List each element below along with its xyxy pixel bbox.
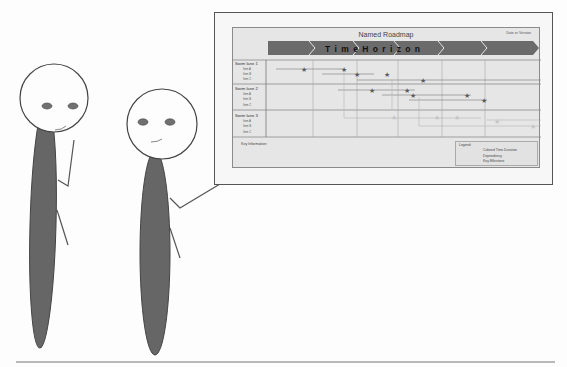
lane-item-label: Item A	[243, 67, 251, 71]
left-person-arm-raised	[58, 140, 74, 186]
key-information-label: Key Information:	[241, 142, 267, 146]
star-icon: ★	[494, 118, 500, 125]
left-person-head	[20, 64, 88, 132]
star-icon: ★	[464, 92, 470, 99]
star-icon: ★	[420, 77, 426, 84]
right-person-head	[127, 89, 197, 159]
duration-lines	[276, 69, 541, 100]
swim-lane-1-label: Swim lane 1	[235, 61, 258, 66]
lane-item-label: Item A	[243, 92, 251, 96]
lane-item-label: Item A	[243, 119, 251, 123]
right-person-arm	[170, 228, 180, 258]
lane-item-label: Item C	[243, 103, 251, 107]
time-gridlines	[313, 60, 485, 137]
right-person-body	[140, 151, 170, 355]
roadmap-panel: Named Roadmap Date or Version T i m e H …	[232, 27, 540, 168]
left-person-eye	[42, 103, 52, 109]
faded-milestones: ★ ★ ★ ★ ★	[391, 114, 536, 130]
star-icon: ★	[454, 114, 460, 121]
legend-item-milestone: Key Milestone	[483, 159, 504, 163]
star-icon: ★	[530, 123, 536, 130]
dependency-lines	[344, 69, 541, 126]
time-horizon-label: T i m e H o r i z o n	[325, 44, 421, 54]
left-person-body	[27, 102, 59, 349]
star-icon: ★	[391, 114, 397, 121]
star-icon: ★	[410, 92, 416, 99]
swim-lane-2-label: Swim lane 2	[235, 86, 258, 91]
legend-item-duration: Colored Time Duration	[483, 148, 517, 152]
star-icon: ★	[384, 71, 390, 78]
legend-item-dependency: Dependency	[483, 154, 502, 158]
legend-box: Legend: Colored Time Duration Dependency…	[455, 141, 538, 166]
star-icon: ★	[341, 66, 347, 73]
right-person-eye	[138, 119, 148, 125]
star-icon: ★	[434, 114, 440, 121]
star-icon: ★	[354, 71, 360, 78]
star-icon: ★	[369, 87, 375, 94]
key-milestones: ★ ★ ★ ★ ★ ★ ★ ★ ★ ★	[301, 66, 487, 104]
lane-item-label: Item C	[243, 130, 251, 134]
left-person-figure	[20, 64, 88, 348]
star-icon: ★	[301, 66, 307, 73]
lane-item-label: Item B	[243, 97, 251, 101]
lane-item-label: Item C	[243, 77, 251, 81]
swim-lane-3-label: Swim lane 3	[235, 113, 258, 118]
star-icon: ★	[481, 97, 487, 104]
left-person-arm	[57, 210, 68, 245]
right-person-eye	[165, 119, 175, 125]
lane-item-label: Item B	[243, 124, 251, 128]
legend-title: Legend:	[459, 143, 471, 147]
lane-item-label: Item B	[243, 72, 251, 76]
left-person-eye	[68, 103, 78, 109]
